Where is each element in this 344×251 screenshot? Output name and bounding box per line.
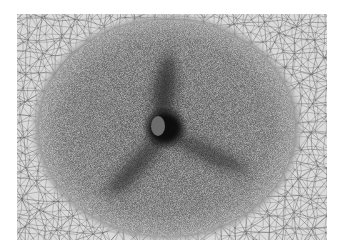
mesh-figure bbox=[17, 14, 327, 240]
hub-center bbox=[151, 116, 165, 136]
propeller-mesh-image bbox=[17, 14, 327, 240]
